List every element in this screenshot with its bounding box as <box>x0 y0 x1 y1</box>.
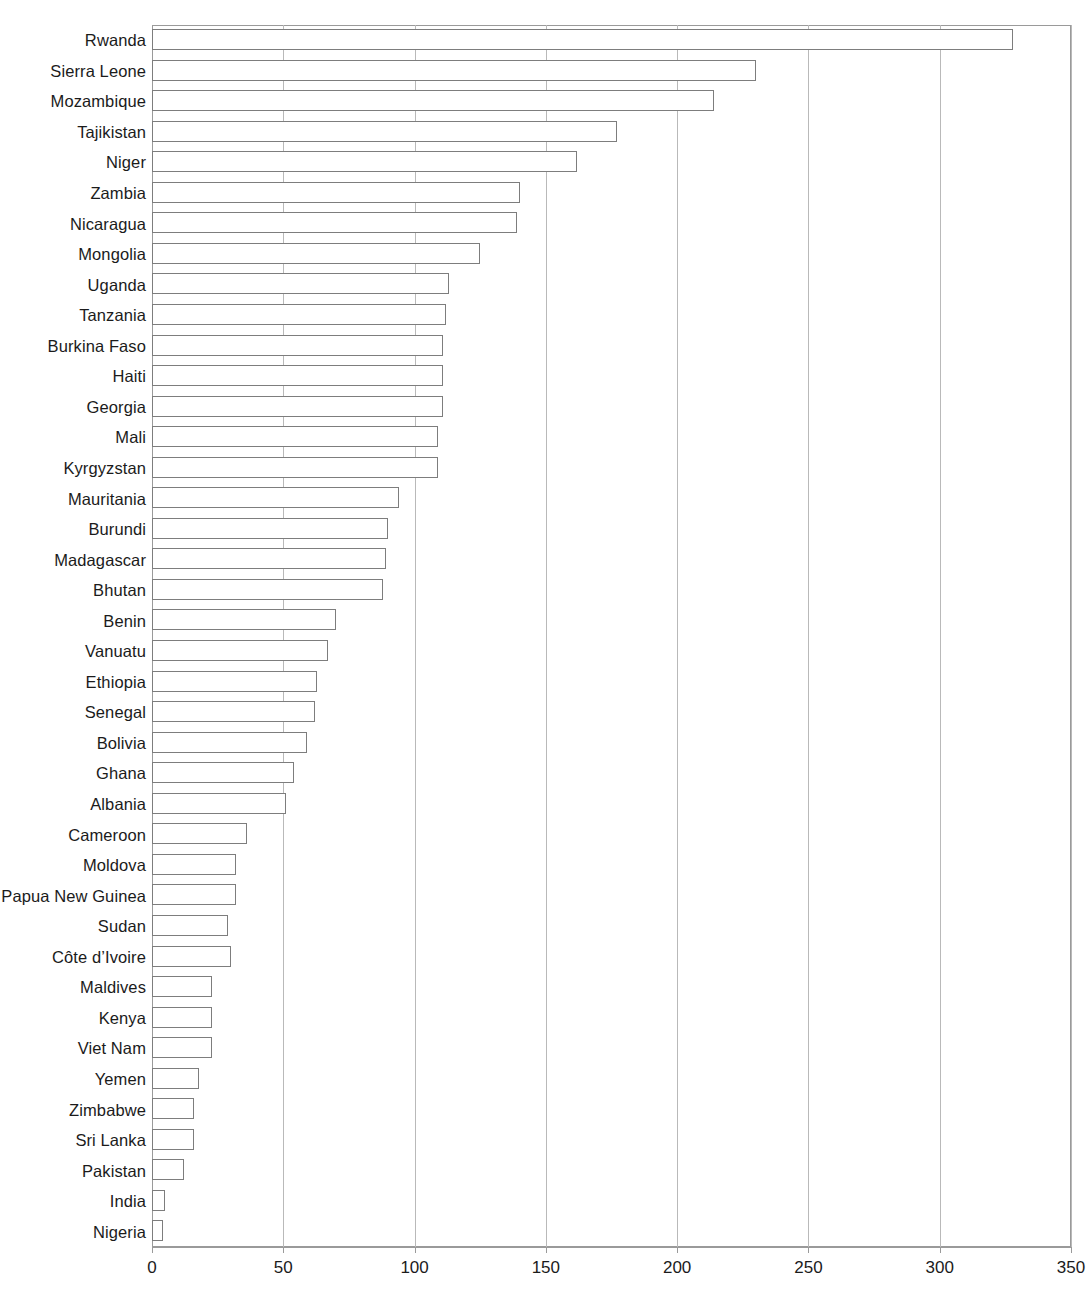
bar[interactable] <box>152 396 443 417</box>
category-label: Burundi <box>0 520 146 538</box>
bar-row <box>152 453 1071 484</box>
bar-row <box>152 911 1071 942</box>
bar-row <box>152 392 1071 423</box>
bar[interactable] <box>152 976 212 997</box>
category-label: Côte d’Ivoire <box>0 948 146 966</box>
bar[interactable] <box>152 793 286 814</box>
category-label: Ghana <box>0 764 146 782</box>
category-label: Haiti <box>0 367 146 385</box>
bar[interactable] <box>152 548 386 569</box>
bar-row <box>152 1064 1071 1095</box>
category-labels: RwandaSierra LeoneMozambiqueTajikistanNi… <box>0 25 146 1247</box>
bar[interactable] <box>152 915 228 936</box>
category-label: Yemen <box>0 1070 146 1088</box>
bar[interactable] <box>152 304 446 325</box>
bar[interactable] <box>152 1159 184 1180</box>
bar-row <box>152 1155 1071 1186</box>
bar-chart: RwandaSierra LeoneMozambiqueTajikistanNi… <box>0 0 1092 1306</box>
bar-row <box>152 758 1071 789</box>
bar[interactable] <box>152 151 577 172</box>
x-tick-label: 150 <box>532 1258 560 1278</box>
x-tick-label: 200 <box>663 1258 691 1278</box>
bar[interactable] <box>152 335 443 356</box>
bar-row <box>152 1186 1071 1217</box>
bar[interactable] <box>152 609 336 630</box>
bar-row <box>152 1094 1071 1125</box>
bar-row <box>152 117 1071 148</box>
x-tick-label: 250 <box>794 1258 822 1278</box>
category-label: Bolivia <box>0 734 146 752</box>
category-label: Tajikistan <box>0 123 146 141</box>
x-tick-mark <box>677 1247 678 1253</box>
x-tick-mark <box>283 1247 284 1253</box>
bar[interactable] <box>152 732 307 753</box>
bar[interactable] <box>152 1129 194 1150</box>
bar[interactable] <box>152 1220 163 1241</box>
x-tick-label: 50 <box>274 1258 293 1278</box>
bar-row <box>152 361 1071 392</box>
bar-row <box>152 422 1071 453</box>
bar-row <box>152 789 1071 820</box>
bar[interactable] <box>152 121 617 142</box>
bar[interactable] <box>152 1068 199 1089</box>
x-tick-mark <box>1071 1247 1072 1253</box>
gridline-350 <box>1071 25 1072 1247</box>
x-tick-label: 300 <box>926 1258 954 1278</box>
bar-row <box>152 636 1071 667</box>
category-label: Nicaragua <box>0 215 146 233</box>
bar-row <box>152 667 1071 698</box>
category-label: Kyrgyzstan <box>0 459 146 477</box>
bar-row <box>152 86 1071 117</box>
bar[interactable] <box>152 884 236 905</box>
category-label: Mozambique <box>0 92 146 110</box>
bar[interactable] <box>152 854 236 875</box>
bar[interactable] <box>152 212 517 233</box>
bar[interactable] <box>152 671 317 692</box>
bar-row <box>152 819 1071 850</box>
bar[interactable] <box>152 1007 212 1028</box>
bar-row <box>152 483 1071 514</box>
bar-row <box>152 1033 1071 1064</box>
category-label: Georgia <box>0 398 146 416</box>
bar[interactable] <box>152 640 328 661</box>
bar[interactable] <box>152 1037 212 1058</box>
bar[interactable] <box>152 426 438 447</box>
bar[interactable] <box>152 518 388 539</box>
bar-row <box>152 269 1071 300</box>
category-label: Zimbabwe <box>0 1101 146 1119</box>
bar[interactable] <box>152 579 383 600</box>
bar[interactable] <box>152 29 1013 50</box>
bar[interactable] <box>152 823 247 844</box>
x-axis-line <box>152 1247 1071 1248</box>
category-label: Madagascar <box>0 551 146 569</box>
bar-row <box>152 331 1071 362</box>
category-label: Mali <box>0 428 146 446</box>
bar[interactable] <box>152 701 315 722</box>
bar-row <box>152 1216 1071 1247</box>
x-tick-mark <box>940 1247 941 1253</box>
bar[interactable] <box>152 1098 194 1119</box>
x-tick-mark <box>415 1247 416 1253</box>
bar-row <box>152 605 1071 636</box>
x-tick-mark <box>808 1247 809 1253</box>
bar[interactable] <box>152 457 438 478</box>
bar-row <box>152 1125 1071 1156</box>
x-tick-label: 350 <box>1057 1258 1085 1278</box>
bar[interactable] <box>152 762 294 783</box>
bar-row <box>152 300 1071 331</box>
bar[interactable] <box>152 365 443 386</box>
bar[interactable] <box>152 182 520 203</box>
bar[interactable] <box>152 90 714 111</box>
bar[interactable] <box>152 487 399 508</box>
bar[interactable] <box>152 946 231 967</box>
bar-row <box>152 728 1071 759</box>
bar[interactable] <box>152 1190 165 1211</box>
bar[interactable] <box>152 243 480 264</box>
bar[interactable] <box>152 60 756 81</box>
bar-row <box>152 178 1071 209</box>
bar-row <box>152 514 1071 545</box>
category-label: Bhutan <box>0 581 146 599</box>
category-label: Zambia <box>0 184 146 202</box>
bar[interactable] <box>152 273 449 294</box>
category-label: Vanuatu <box>0 642 146 660</box>
